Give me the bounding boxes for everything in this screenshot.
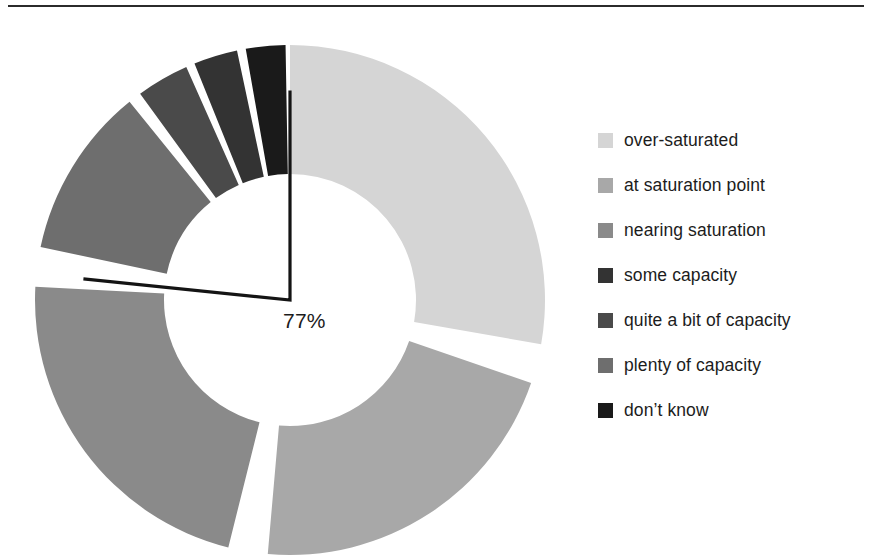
- legend-swatch-icon: [598, 223, 613, 238]
- legend-swatch-icon: [598, 358, 613, 373]
- legend-item[interactable]: quite a bit of capacity: [598, 298, 866, 343]
- legend-item-label: over-saturated: [624, 131, 738, 150]
- legend-item[interactable]: nearing saturation: [598, 208, 866, 253]
- legend-item[interactable]: at saturation point: [598, 163, 866, 208]
- legend-item-label: at saturation point: [624, 176, 765, 195]
- legend-item-label: plenty of capacity: [624, 356, 761, 375]
- legend-swatch-icon: [598, 268, 613, 283]
- legend-item-label: some capacity: [624, 266, 737, 285]
- donut-chart-svg: [0, 0, 580, 557]
- donut-chart: 77%: [0, 0, 580, 557]
- chart-page: 77% over-saturatedat saturation pointnea…: [0, 0, 872, 557]
- chart-value-label: 77%: [283, 309, 326, 333]
- legend-item[interactable]: over-saturated: [598, 118, 866, 163]
- donut-slice[interactable]: [290, 45, 545, 344]
- legend-item[interactable]: some capacity: [598, 253, 866, 298]
- legend-swatch-icon: [598, 178, 613, 193]
- legend-swatch-icon: [598, 403, 613, 418]
- legend-swatch-icon: [598, 133, 613, 148]
- legend-item-label: don’t know: [624, 401, 709, 420]
- legend-item[interactable]: don’t know: [598, 388, 866, 433]
- legend-swatch-icon: [598, 313, 613, 328]
- donut-slice[interactable]: [35, 287, 260, 548]
- chart-legend: over-saturatedat saturation pointnearing…: [598, 118, 866, 433]
- legend-item-label: quite a bit of capacity: [624, 311, 791, 330]
- legend-item[interactable]: plenty of capacity: [598, 343, 866, 388]
- donut-slice[interactable]: [268, 341, 531, 555]
- legend-item-label: nearing saturation: [624, 221, 766, 240]
